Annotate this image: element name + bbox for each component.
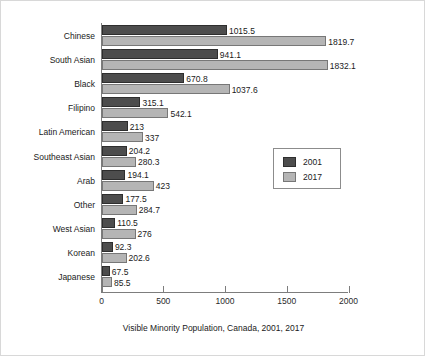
category-label-southeast-asian: Southeast Asian [34,152,95,162]
category-label-other: Other [74,200,95,210]
x-tick-label-1500: 1500 [277,296,296,306]
bar-arab-2017 [102,181,154,191]
category-label-latin-american: Latin American [39,127,95,137]
value-label-southeast-asian-2017: 280.3 [138,157,159,167]
x-tick-label-1000: 1000 [216,296,235,306]
legend-entry-2017: 2017 [283,172,322,182]
x-tick-2000 [349,286,350,293]
bar-japanese-2001 [102,266,110,276]
category-label-chinese: Chinese [64,31,95,41]
category-label-south-asian: South Asian [50,55,95,65]
value-label-chinese-2017: 1819.7 [328,37,354,47]
bar-southeast-asian-2017 [102,157,137,167]
value-label-arab-2001: 194.1 [127,170,148,180]
value-label-arab-2017: 423 [156,181,170,191]
value-label-other-2001: 177.5 [125,194,146,204]
value-label-japanese-2001: 67.5 [112,267,129,277]
category-label-korean: Korean [68,248,95,258]
bar-chinese-2017 [102,36,327,46]
value-label-latin-american-2001: 213 [130,122,144,132]
bar-korean-2017 [102,253,127,263]
value-label-black-2017: 1037.6 [232,85,258,95]
x-tick-1500 [287,286,288,293]
category-label-japanese: Japanese [58,272,95,282]
bar-west-asian-2001 [102,218,116,228]
x-tick-label-500: 500 [156,296,170,306]
bar-latin-american-2001 [102,121,128,131]
legend-label-2017: 2017 [303,172,322,182]
x-tick-label-0: 0 [99,296,104,306]
value-label-latin-american-2017: 337 [145,133,159,143]
value-label-south-asian-2017: 1832.1 [330,61,356,71]
legend-swatch-2017 [283,172,296,182]
x-tick-1000 [225,286,226,293]
x-tick-0 [102,286,103,293]
value-label-west-asian-2017: 276 [138,229,152,239]
bar-japanese-2017 [102,277,113,287]
value-label-korean-2001: 92.3 [115,242,132,252]
value-label-chinese-2001: 1015.5 [229,26,255,36]
legend-entry-2001: 2001 [283,157,322,167]
value-label-filipino-2001: 315.1 [142,98,163,108]
value-label-other-2017: 284.7 [139,205,160,215]
bar-korean-2001 [102,242,113,252]
category-label-arab: Arab [77,176,95,186]
value-label-japanese-2017: 85.5 [114,278,131,288]
bar-west-asian-2017 [102,229,136,239]
legend-swatch-2001 [283,157,296,167]
chart-caption: Visible Minority Population, Canada, 200… [1,323,425,333]
bar-chinese-2001 [102,25,227,35]
x-tick-500 [163,286,164,293]
value-label-black-2001: 670.8 [186,74,207,84]
bar-south-asian-2017 [102,60,328,70]
chart-legend: 2001 2017 [273,148,341,189]
category-label-west-asian: West Asian [53,224,95,234]
category-label-black: Black [74,79,95,89]
chart-figure: 0500100015002000 ChineseSouth AsianBlack… [0,0,425,356]
bar-other-2001 [102,194,124,204]
category-label-filipino: Filipino [68,103,95,113]
bar-filipino-2017 [102,108,169,118]
bar-southeast-asian-2001 [102,146,127,156]
bar-black-2001 [102,73,185,83]
value-label-west-asian-2001: 110.5 [117,218,138,228]
value-label-south-asian-2001: 941.1 [220,50,241,60]
x-tick-label-2000: 2000 [339,296,358,306]
plot-area: 0500100015002000 ChineseSouth AsianBlack… [1,1,425,356]
bar-south-asian-2001 [102,49,218,59]
value-label-korean-2017: 202.6 [129,253,150,263]
value-label-southeast-asian-2001: 204.2 [129,146,150,156]
value-label-filipino-2017: 542.1 [170,109,191,119]
bar-latin-american-2017 [102,132,144,142]
bar-arab-2001 [102,170,126,180]
legend-label-2001: 2001 [303,157,322,167]
bar-filipino-2001 [102,97,141,107]
bar-other-2017 [102,205,137,215]
bar-black-2017 [102,84,230,94]
